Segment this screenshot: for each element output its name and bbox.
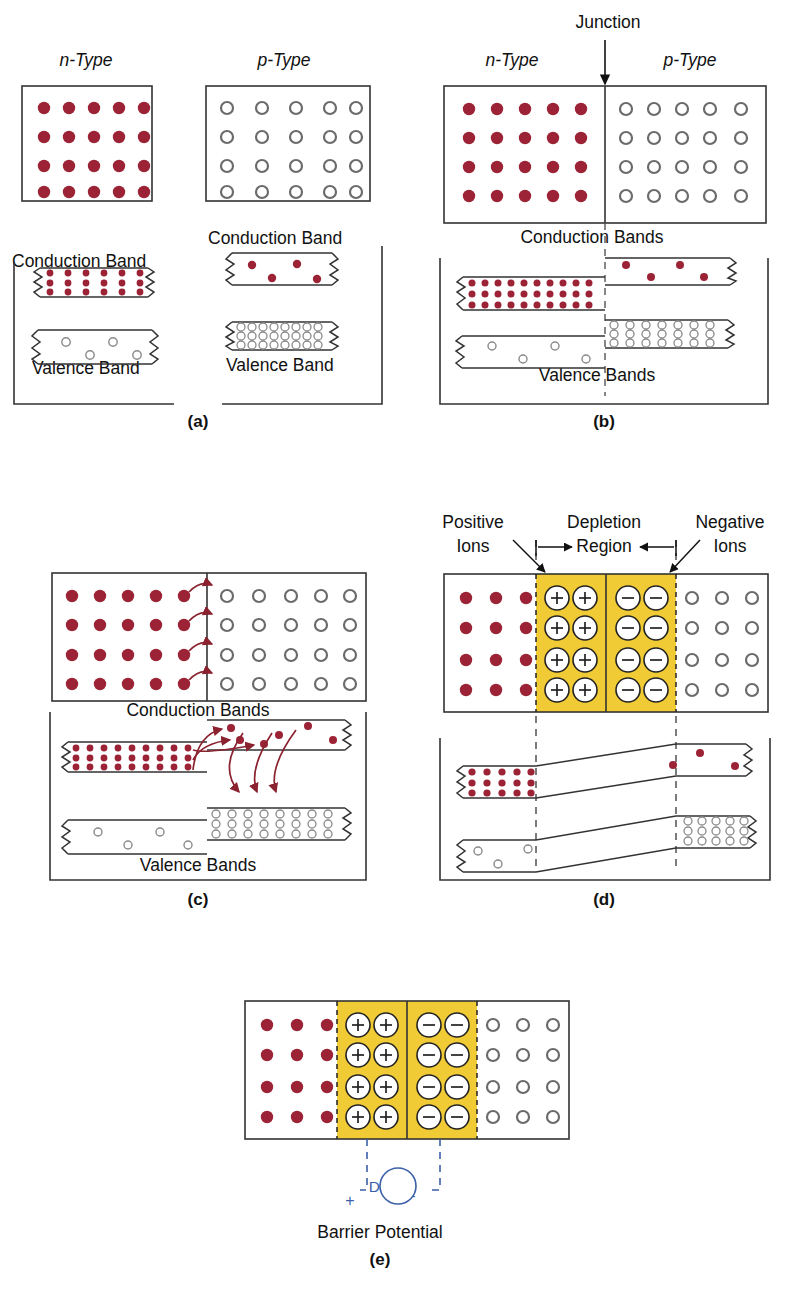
panel-b-n-conduction-band [457,277,605,310]
figure-vector-layer [0,0,792,1311]
panel-d-p-valence-holes [684,817,748,845]
panel-e-p-holes [487,1019,559,1123]
panel-a-right-frame [222,246,382,404]
panel-b-n-valence-band [456,336,605,368]
panel-b-p-valence-holes [610,321,714,347]
panel-a-p-conduction-band [226,253,338,285]
panel-a-n-valence-holes [62,338,141,359]
panel-c-p-conduction-electrons [227,722,337,748]
panel-c-p-holes [221,590,356,690]
panel-d-p-conduction-electrons [669,749,739,770]
panel-d-region-span [536,540,676,556]
panel-a-left-frame [14,262,174,404]
panel-c-n-electrons [66,590,190,690]
panel-d-n-conduction-electrons [468,768,534,796]
panel-c-n-valence-band [62,820,207,854]
panel-a-p-valence-holes [237,323,322,349]
panel-d-n-electrons [460,592,532,696]
panel-c-p-valence-holes [212,810,332,838]
panel-a-p-holes [221,102,362,198]
panel-b-p-valence-band [605,320,734,348]
panel-d-band-frame [440,738,770,880]
panel-e-n-electrons [261,1019,333,1123]
panel-b-n-valence-holes [488,342,590,363]
panel-b-band-frame [440,258,768,404]
panel-b-p-conduction-electrons [622,261,708,281]
panel-b-n-electrons [463,103,587,202]
panel-d-label-pointers [513,540,700,572]
panel-c-diffusion-arrows [189,584,212,680]
panel-b-n-conduction-electrons [469,280,593,309]
panel-a-n-conduction-electrons [47,270,144,296]
panel-c-band-frame [50,712,366,880]
panel-a-n-electrons [38,102,150,198]
panel-d-n-valence-holes [474,845,532,868]
panel-d-p-holes [686,592,758,696]
pn-junction-figure: n-Type p-Type Conduction Band Valence Ba… [0,0,792,1311]
panel-a-p-conduction-electrons [248,260,321,283]
panel-b-p-holes [620,103,747,202]
panel-c-n-conduction-electrons [73,745,192,771]
panel-e-dc-source-circle [380,1168,416,1204]
panel-c-n-valence-holes [94,828,192,849]
panel-c-recombination-arrows [229,730,296,792]
